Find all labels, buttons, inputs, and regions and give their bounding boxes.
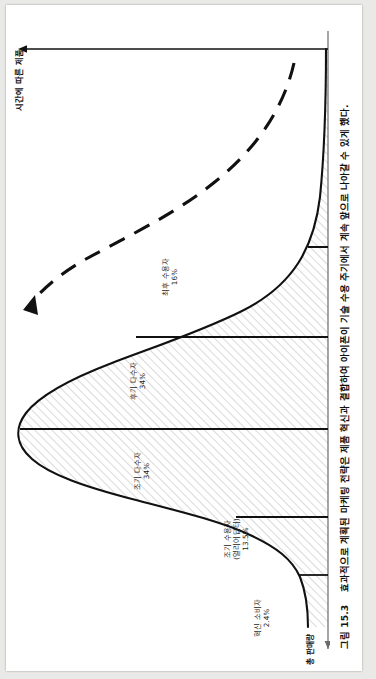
figure-caption-number: 그림 15.3: [339, 605, 350, 649]
segment-label-laggards: 최후 수용자 16%: [162, 243, 180, 311]
segment-label-late-majority: 후기 다수자 34%: [130, 347, 148, 415]
figure-caption-text: 효과적으로 계획된 마케팅 전략은 제품 혁신과 결합하여 아이폰이 기술 수용…: [339, 105, 350, 592]
adoption-area-fill: [18, 49, 328, 627]
y-axis-title: 총 판매량: [304, 634, 315, 665]
x-axis-title: 시간에 따른 제품: [12, 49, 24, 111]
figure-caption-wrap: 그림 15.3 효과적으로 계획된 마케팅 전략은 제품 혁신과 결합하여 아이…: [330, 5, 360, 671]
figure-chart-area: 혁신 소비자 2.4% 조기 수용자 (얼리어답터) 13.5% 조기 다수자 …: [8, 9, 330, 667]
segment-label-innovators: 혁신 소비자 2.4%: [254, 585, 272, 651]
segment-label-early-majority: 조기 다수자 34%: [134, 437, 152, 505]
rotated-chart-frame: 혁신 소비자 2.4% 조기 수용자 (얼리어답터) 13.5% 조기 다수자 …: [8, 9, 330, 667]
page-sheet: 혁신 소비자 2.4% 조기 수용자 (얼리어답터) 13.5% 조기 다수자 …: [6, 5, 362, 671]
figure-caption: 그림 15.3 효과적으로 계획된 마케팅 전략은 제품 혁신과 결합하여 아이…: [339, 9, 351, 649]
segment-label-early-adopters: 조기 수용자 (얼리어답터) 13.5%: [224, 499, 250, 579]
adoption-curve-plot: [8, 9, 330, 667]
cumulative-trend-arrowhead: [23, 295, 38, 315]
